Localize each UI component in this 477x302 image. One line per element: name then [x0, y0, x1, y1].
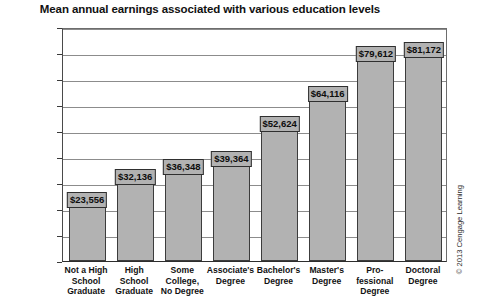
bar: $36,348: [165, 167, 202, 262]
x-axis-category-line: fessional: [351, 276, 399, 287]
x-axis-category-line: Degree: [255, 276, 303, 287]
copyright-credit: © 2013 Cengage Learning: [455, 185, 464, 274]
x-axis-category-label: Pro-fessionalDegree: [351, 265, 399, 297]
bar-value-label: $36,348: [163, 159, 203, 175]
bar-value-label: $64,116: [308, 86, 348, 102]
x-axis-category-line: Pro-: [351, 265, 399, 276]
x-axis-category-line: No Degree: [158, 286, 206, 297]
x-axis-category-label: Bachelor'sDegree: [255, 265, 303, 286]
x-axis-category-line: Doctoral: [399, 265, 447, 276]
x-axis-category-label: HighSchoolGraduate: [110, 265, 158, 297]
bar-value-label: $81,172: [404, 42, 444, 58]
x-axis-category-line: Degree: [303, 276, 351, 287]
x-axis-category-label: Associate'sDegree: [206, 265, 254, 286]
x-axis-category-line: School: [110, 276, 158, 287]
bar: $39,364: [213, 159, 250, 261]
x-axis-category-line: High: [110, 265, 158, 276]
bar: $79,612: [357, 54, 394, 261]
x-axis-category-line: College,: [158, 276, 206, 287]
x-axis-category-line: Master's: [303, 265, 351, 276]
x-axis-category-line: Not a High: [62, 265, 110, 276]
bar: $64,116: [309, 94, 346, 261]
gridline: [63, 29, 446, 30]
bar: $52,624: [261, 124, 298, 261]
x-axis-category-line: Some: [158, 265, 206, 276]
x-axis-category-label: SomeCollege,No Degree: [158, 265, 206, 297]
x-axis-category-line: Degree: [399, 276, 447, 287]
x-axis-category-line: School: [62, 276, 110, 287]
bar: $23,556: [69, 200, 106, 261]
bar: $81,172: [405, 50, 442, 261]
bar-value-label: $52,624: [259, 116, 299, 132]
x-axis-category-label: DoctoralDegree: [399, 265, 447, 286]
bar-value-label: $39,364: [211, 151, 251, 167]
bar-value-label: $32,136: [115, 169, 155, 185]
plot-area: $23,556$32,136$36,348$39,364$52,624$64,1…: [62, 28, 447, 262]
x-axis-category-line: Graduate: [110, 286, 158, 297]
bar-value-label: $23,556: [67, 192, 107, 208]
x-axis-category-line: Associate's: [206, 265, 254, 276]
x-axis-category-line: Graduate: [62, 286, 110, 297]
x-axis-category-line: Bachelor's: [255, 265, 303, 276]
chart-title: Mean annual earnings associated with var…: [0, 3, 420, 15]
x-axis-category-line: Degree: [206, 276, 254, 287]
x-axis-category-line: Degree: [351, 286, 399, 297]
chart-container: Mean annual earnings associated with var…: [0, 0, 477, 302]
y-axis-tick: [57, 262, 62, 263]
bar-value-label: $79,612: [356, 46, 396, 62]
x-axis-category-label: Master'sDegree: [303, 265, 351, 286]
bar: $32,136: [117, 177, 154, 261]
x-axis-category-label: Not a HighSchoolGraduate: [62, 265, 110, 297]
